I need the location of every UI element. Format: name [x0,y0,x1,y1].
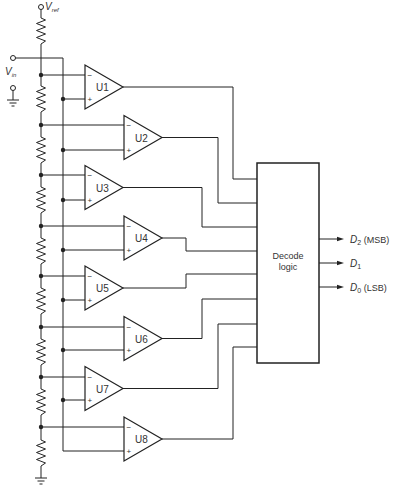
decode-logic-label-line1: Decode [272,251,303,261]
d1-subscript: 1 [357,263,361,270]
arrow-right-icon [337,237,344,241]
inverting-pin-sign: − [88,171,93,180]
comparator-u1: − + U1 [85,65,123,109]
resistor-icon [37,86,46,112]
ladder-junction-dot [39,73,43,77]
flash-adc-diagram: Vref Vin [0,0,394,489]
comparator-label: U4 [135,233,148,244]
resistor-icon [37,238,46,264]
comparator-u6: − + U6 [124,317,162,361]
vref-terminal: Vref [39,1,61,13]
inverting-pin-sign: − [127,323,132,332]
vref-label: Vref [45,1,60,13]
resistor-ladder [35,10,47,485]
ladder-junction-dot [39,173,43,177]
comparator-label: U3 [96,183,109,194]
inverting-pin-sign: − [88,71,93,80]
d0-label: D0 (LSB) [350,282,387,294]
noninverting-pin-sign: + [88,95,93,104]
vref-terminal-circle [39,5,44,10]
comparator-label: U6 [135,334,148,345]
noninverting-pin-sign: + [88,396,93,405]
decode-logic-block: Decode logic [257,163,319,363]
vin-bus-junction-dot [61,298,65,302]
resistor-icon [37,440,46,466]
resistor-icon [37,288,46,314]
resistor-icon [37,187,46,213]
vin-ground [7,86,19,107]
vin-bus-junction-dot [61,97,65,101]
ladder-junction-dot [39,325,43,329]
comparator-input-wiring [39,73,124,429]
u2-output-wire [162,138,257,204]
vin-bus-junction-dot [61,198,65,202]
ladder-ground-icon [35,478,47,484]
vin-bus-junction-dot [61,148,65,152]
comparator-label: U2 [135,133,148,144]
noninverting-pin-sign: + [127,346,132,355]
u5-output-wire [123,274,257,288]
vin-bus-junction-dot [61,248,65,252]
noninverting-pin-sign: + [127,146,132,155]
u8-output-wire [162,347,257,439]
vin-bus-junction-dot [61,348,65,352]
d2-note: (MSB) [361,235,389,245]
comparator-label: U7 [96,384,109,395]
d2-symbol: D [350,234,357,245]
d1-label: D1 [350,258,361,270]
vref-subscript: ref [52,7,60,13]
comparator-u3: − + U3 [85,166,123,210]
arrow-right-icon [337,261,344,265]
comparator-label: U5 [96,283,109,294]
resistor-icon [37,18,46,44]
comparator-u8: − + U8 [124,417,162,461]
output-d2: D2 (MSB) [319,234,389,246]
u6-output-wire [162,299,257,339]
resistor-icon [37,137,46,163]
inverting-pin-sign: − [127,121,132,130]
arrow-right-icon [337,285,344,289]
resistor-icon [37,339,46,365]
inverting-pin-sign: − [88,373,93,382]
comparator-u7: − + U7 [85,367,123,411]
u3-output-wire [123,188,257,228]
comparator-label: U1 [96,82,109,93]
ladder-junction-dot [39,375,43,379]
output-d0: D0 (LSB) [319,282,387,294]
output-d1: D1 [319,258,361,270]
d2-label: D2 (MSB) [350,234,389,246]
ladder-junction-dot [39,224,43,228]
noninverting-pin-sign: + [88,296,93,305]
comparator-u2: − + U2 [124,116,162,160]
comparator-u4: − + U4 [124,216,162,260]
ladder-junction-dot [39,425,43,429]
comparator-label: U8 [135,434,148,445]
comparator-u5: − + U5 [85,266,123,310]
vin-terminal-circle [11,56,16,61]
decode-logic-label-line2: logic [279,262,298,272]
d0-symbol: D [350,282,357,293]
ground-terminal-circle [11,86,16,91]
noninverting-pin-sign: + [127,447,132,456]
d0-note: (LSB) [361,283,387,293]
vin-label: Vin [5,66,17,78]
ladder-junction-dot [39,274,43,278]
inverting-pin-sign: − [127,222,132,231]
u4-output-wire [162,238,257,251]
inverting-pin-sign: − [88,272,93,281]
vin-subscript: in [12,72,17,78]
noninverting-pin-sign: + [88,196,93,205]
d1-symbol: D [350,258,357,269]
ladder-junction-dot [39,123,43,127]
noninverting-pin-sign: + [127,246,132,255]
vin-bus-junction-dot [61,398,65,402]
inverting-pin-sign: − [127,423,132,432]
resistor-icon [37,389,46,415]
